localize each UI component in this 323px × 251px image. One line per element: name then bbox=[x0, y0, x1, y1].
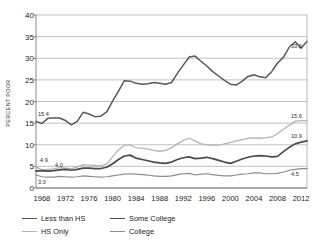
poverty-by-education-line-chart: PERCENT POOR 0510152025303540 1968197219… bbox=[0, 0, 323, 251]
x-axis-tick: 1988 bbox=[151, 194, 168, 203]
data-label-start-less-than-hs: 15.4 bbox=[38, 111, 49, 117]
legend-line-swatch bbox=[22, 218, 37, 219]
data-label-end-college: 4.5 bbox=[291, 171, 299, 177]
legend-item-less-than-hs[interactable]: Less than HS bbox=[22, 214, 110, 223]
x-axis-tick: 2008 bbox=[269, 194, 286, 203]
data-label-end-some-college: 10.9 bbox=[291, 133, 302, 139]
data-label-end-less-than-hs: 33.9 bbox=[291, 43, 302, 49]
x-axis-tick: 2000 bbox=[222, 194, 239, 203]
data-label-start-hs-only: 4.9 bbox=[40, 157, 48, 163]
legend-item-hs-only[interactable]: HS Only bbox=[22, 227, 110, 236]
legend-item-some-college[interactable]: Some College bbox=[110, 214, 175, 223]
x-axis-tick: 1972 bbox=[57, 194, 74, 203]
legend-label: HS Only bbox=[41, 227, 69, 236]
legend-line-swatch bbox=[110, 218, 125, 219]
legend-line-swatch bbox=[22, 231, 37, 232]
x-axis-tick: 2012 bbox=[293, 194, 310, 203]
data-label-start-college: 3.0 bbox=[38, 179, 46, 185]
legend-label: College bbox=[129, 227, 154, 236]
x-axis-tick: 1980 bbox=[104, 194, 121, 203]
x-axis-tick: 1968 bbox=[33, 194, 50, 203]
legend-row: HS OnlyCollege bbox=[22, 225, 302, 238]
x-axis-tick: 1996 bbox=[198, 194, 215, 203]
x-axis-tick: 1976 bbox=[81, 194, 98, 203]
legend-row: Less than HSSome College bbox=[22, 212, 302, 225]
legend-item-college[interactable]: College bbox=[110, 227, 154, 236]
legend-line-swatch bbox=[110, 231, 125, 232]
x-axis-tick: 1984 bbox=[128, 194, 145, 203]
legend-label: Less than HS bbox=[41, 214, 85, 223]
x-axis-tick: 2004 bbox=[246, 194, 263, 203]
x-axis-tick: 1992 bbox=[175, 194, 192, 203]
data-label-end-hs-only: 15.6 bbox=[291, 113, 302, 119]
data-label-start-some-college: 4.0 bbox=[55, 162, 63, 168]
legend-label: Some College bbox=[129, 214, 175, 223]
chart-legend: Less than HSSome CollegeHS OnlyCollege bbox=[22, 212, 302, 238]
